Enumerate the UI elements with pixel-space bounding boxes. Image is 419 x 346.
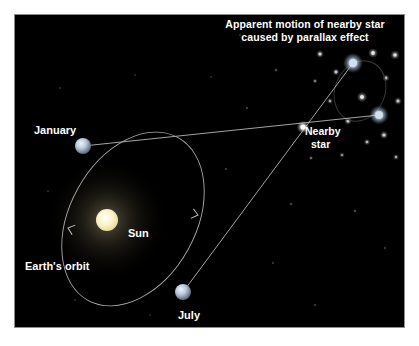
background-star [47,190,48,191]
background-star [225,168,226,169]
background-star [360,95,364,99]
background-star [366,141,369,144]
background-star [341,154,343,156]
background-star [314,80,316,82]
background-star [210,76,211,77]
background-star [134,74,135,75]
background-star [246,107,247,108]
background-star [319,53,322,56]
parallax-diagram: Apparent motion of nearby star caused by… [0,0,419,346]
background-star [395,156,397,158]
apparent-position-upper [349,59,357,67]
background-star [314,304,315,305]
background-star [384,247,385,248]
sky-panel: Apparent motion of nearby star caused by… [14,14,405,328]
background-star [329,100,331,102]
background-star [354,210,356,212]
background-star [371,51,375,55]
background-star [275,69,277,71]
background-star [382,133,385,136]
background-star [149,314,150,315]
background-star [310,157,312,159]
background-star [290,203,292,205]
apparent-position-lower [375,111,383,119]
earth-july [175,284,191,300]
background-star [397,100,400,103]
sky-canvas [15,15,404,327]
background-star [239,34,240,35]
background-star [74,299,75,300]
background-star [335,71,338,74]
nearby-star [300,124,305,129]
background-star [272,262,273,263]
earth-january [75,138,91,154]
background-star [59,87,60,88]
sun [96,209,118,231]
background-star [393,53,397,57]
